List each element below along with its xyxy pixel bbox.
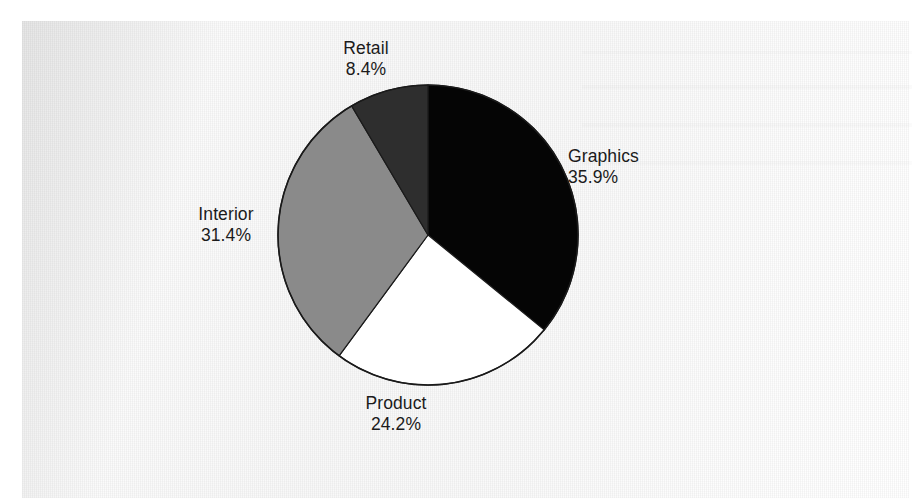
pie-label-interior: Interior 31.4%: [168, 204, 284, 246]
pie-label-retail: Retail 8.4%: [306, 38, 426, 80]
pie-label-interior-value: 31.4%: [168, 225, 284, 246]
pie-slice-group: [278, 85, 578, 385]
pie-label-interior-name: Interior: [168, 204, 284, 225]
pie-label-graphics-value: 35.9%: [568, 167, 698, 188]
pie-label-graphics: Graphics 35.9%: [568, 146, 698, 188]
pie-label-product: Product 24.2%: [336, 393, 456, 435]
pie-label-product-name: Product: [336, 393, 456, 414]
pie-label-product-value: 24.2%: [336, 414, 456, 435]
pie-label-retail-value: 8.4%: [306, 59, 426, 80]
pie-label-retail-name: Retail: [306, 38, 426, 59]
pie-label-graphics-name: Graphics: [568, 146, 698, 167]
